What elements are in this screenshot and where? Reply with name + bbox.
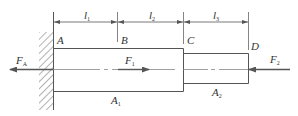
- bar-segment-a2: [184, 54, 249, 84]
- point-label-d: D: [250, 40, 259, 52]
- dim-label-l1: l1: [84, 9, 90, 22]
- force-label-fa: FA: [15, 54, 28, 67]
- force-label-f1: F1: [124, 54, 135, 67]
- point-label-a: A: [56, 34, 64, 46]
- section-label-a2: A2: [211, 86, 222, 99]
- dim-label-l3: l3: [213, 9, 219, 22]
- stepped-bar-diagram: l1 l2 l3 A B C D FA F1 F2 A1 A2: [0, 0, 298, 116]
- point-label-b: B: [121, 34, 128, 46]
- extension-lines: [118, 12, 249, 50]
- bar-body: [54, 49, 249, 92]
- section-label-a1: A1: [110, 94, 121, 107]
- wall-hatching: [39, 32, 53, 110]
- force-label-f2: F2: [269, 53, 280, 66]
- fixed-wall-support: [39, 12, 54, 110]
- point-label-c: C: [187, 34, 195, 46]
- dim-label-l2: l2: [149, 9, 155, 22]
